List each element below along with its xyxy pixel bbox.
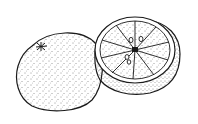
orange-drawing xyxy=(0,0,198,124)
orange-illustration xyxy=(0,0,198,124)
whole-orange xyxy=(17,33,103,111)
halved-orange xyxy=(95,17,180,94)
core-icon xyxy=(132,47,138,52)
